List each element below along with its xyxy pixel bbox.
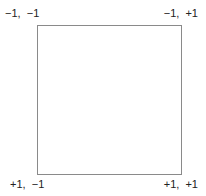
corner-label-bottom-left: +1, −1 bbox=[10, 178, 44, 190]
corner-label-top-right: −1, +1 bbox=[164, 7, 198, 19]
corner-label-bottom-right: +1, +1 bbox=[164, 178, 198, 190]
corner-label-top-left: −1, −1 bbox=[5, 7, 39, 19]
square-box bbox=[37, 25, 182, 175]
